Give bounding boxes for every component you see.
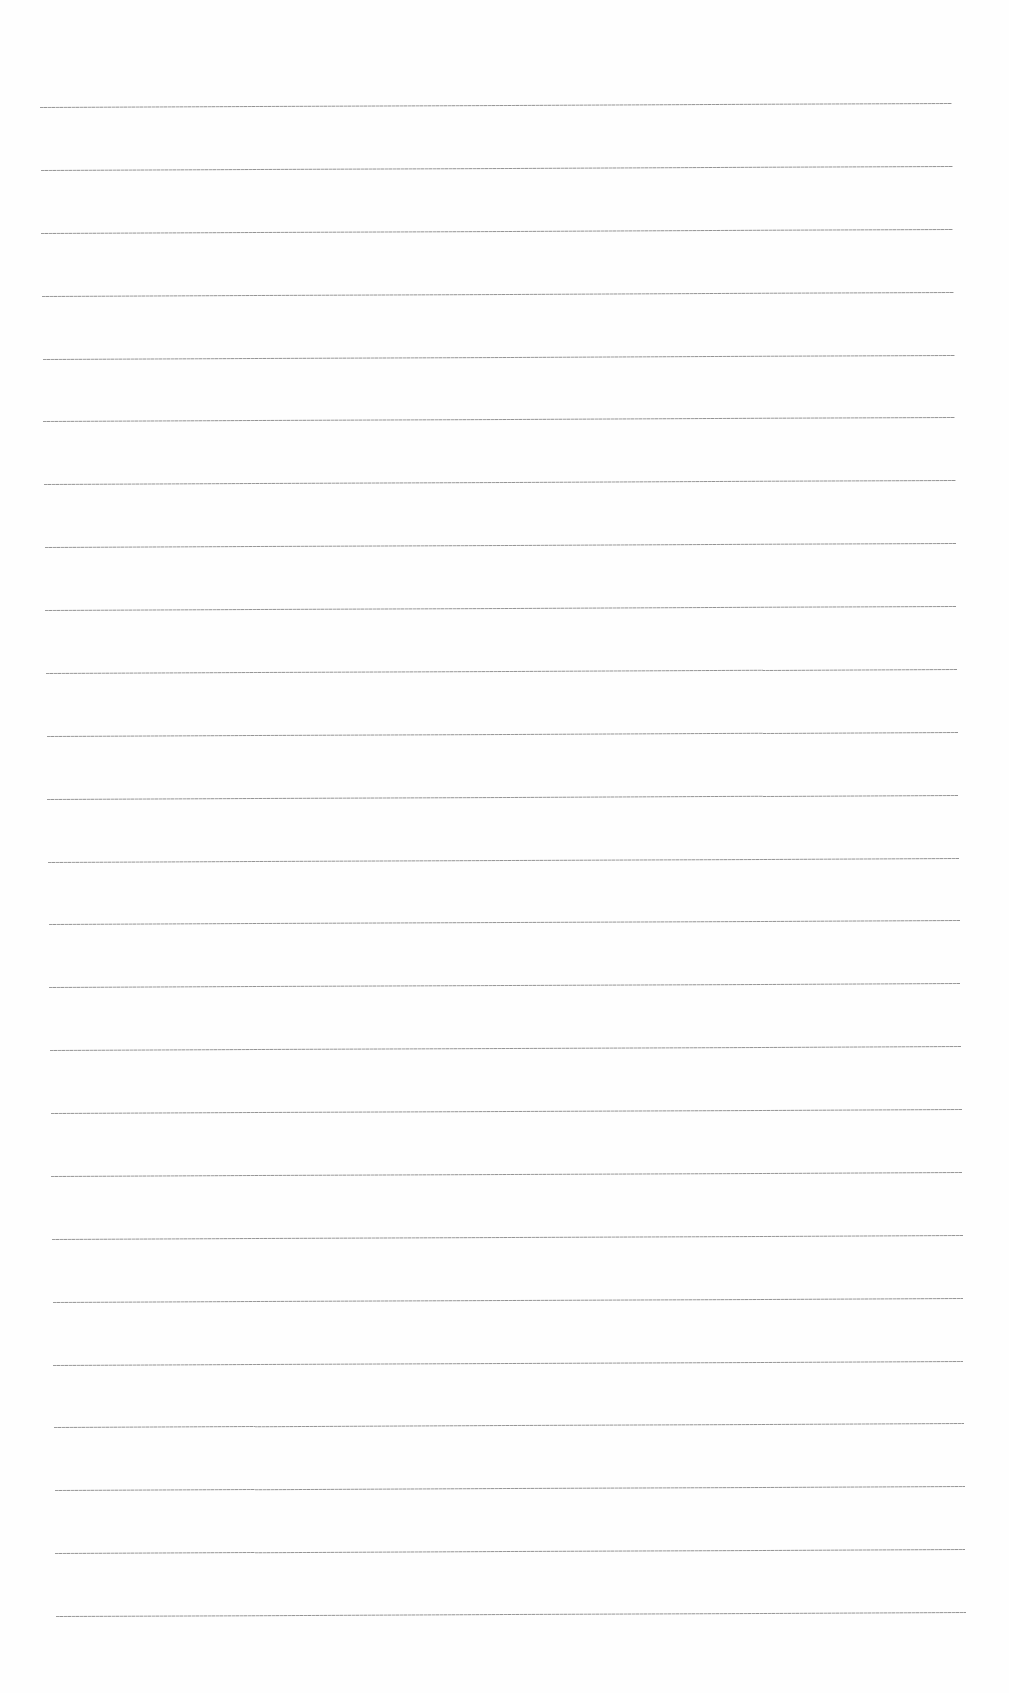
lined-paper-page: [0, 0, 1009, 1693]
ruled-line: [48, 858, 959, 863]
ruled-line: [50, 1046, 961, 1051]
ruled-line: [45, 606, 956, 611]
ruled-line: [49, 920, 960, 925]
ruled-line: [47, 732, 958, 737]
ruled-line: [40, 103, 952, 108]
ruled-line: [51, 1109, 962, 1114]
ruled-line: [41, 229, 953, 234]
ruled-line: [46, 669, 957, 674]
ruled-line: [55, 1486, 965, 1491]
ruled-line: [49, 983, 960, 988]
ruled-line: [54, 1423, 964, 1428]
ruled-line: [43, 417, 955, 422]
ruled-line: [53, 1298, 963, 1303]
ruled-line: [52, 1235, 962, 1240]
ruled-line: [45, 543, 956, 548]
ruled-line: [51, 1172, 962, 1177]
ruled-line: [44, 480, 955, 485]
ruled-line: [42, 292, 954, 297]
ruled-line: [55, 1549, 965, 1554]
ruled-line: [41, 166, 953, 171]
ruled-line: [53, 1361, 963, 1366]
ruled-line: [47, 795, 958, 800]
ruled-line: [43, 355, 955, 360]
ruled-line: [56, 1612, 966, 1617]
